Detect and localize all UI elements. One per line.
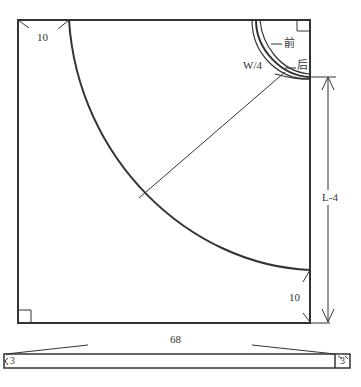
fabric-square [18,20,310,323]
right-angle-marker-top-right [297,20,310,31]
label-front: 前 [284,38,295,49]
diagonal-line [139,72,285,198]
label-waist: W/4 [243,60,262,71]
label-length: L-4 [322,190,338,205]
hem-curve [69,20,310,270]
label-waistband-length: 68 [170,334,181,345]
label-waistband-left: 3 [10,356,15,366]
label-back: 后 [297,60,308,71]
label-top-left-10: 10 [37,32,48,43]
label-bottom-right-10: 10 [289,292,300,303]
right-angle-marker-bottom-left [18,310,31,323]
label-waistband-right: 3 [340,356,345,366]
waistband [4,354,350,368]
